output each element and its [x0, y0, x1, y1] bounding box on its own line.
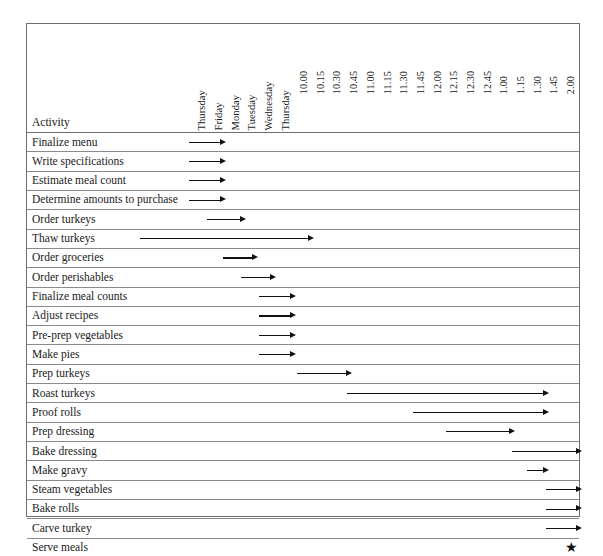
gantt-row[interactable]: Order turkeys [27, 209, 579, 228]
day-axis-label: Friday [214, 102, 225, 130]
gantt-row[interactable]: Make pies [27, 344, 579, 363]
gantt-row-label: Determine amounts to purchase [32, 193, 178, 205]
gantt-bar-arrow [446, 431, 510, 432]
gantt-row-label: Prep turkeys [32, 367, 90, 379]
gantt-row[interactable]: Steam vegetables [27, 480, 579, 499]
gantt-row-label: Roast turkeys [32, 387, 95, 399]
gantt-row-label: Adjust recipes [32, 309, 98, 321]
gantt-bar-arrow [347, 393, 544, 394]
gantt-row[interactable]: Order groceries [27, 248, 579, 267]
activity-column-header: Activity [32, 116, 70, 128]
time-axis-label: 1.45 [549, 76, 559, 94]
gantt-bar-arrow [223, 257, 253, 258]
time-axis-label: 1.00 [499, 76, 509, 94]
gantt-bar-arrow [297, 373, 347, 374]
gantt-row[interactable]: Estimate meal count [27, 171, 579, 190]
gantt-bar-arrow [189, 142, 221, 143]
time-axis-label: 10.45 [349, 71, 359, 94]
time-axis-label: 10.30 [332, 71, 342, 94]
gantt-row-label: Steam vegetables [32, 483, 112, 495]
gantt-bar-arrow [413, 412, 544, 413]
gantt-row-label: Make gravy [32, 464, 87, 476]
gantt-row[interactable]: Prep turkeys [27, 364, 579, 383]
day-axis-label: Monday [231, 94, 242, 130]
gantt-row[interactable]: Pre-prep vegetables [27, 325, 579, 344]
day-axis-label: Wednesday [264, 81, 275, 130]
gantt-bar-arrow [189, 180, 221, 181]
day-axis-label: Tuesday [247, 94, 258, 130]
time-axis-label: 12.30 [466, 71, 476, 94]
time-axis-label: 12.15 [449, 71, 459, 94]
gantt-row[interactable]: Bake dressing [27, 441, 579, 460]
gantt-bar-arrow [527, 470, 544, 471]
gantt-row[interactable]: Finalize meal counts [27, 287, 579, 306]
time-axis-label: 1.15 [516, 76, 526, 94]
gantt-row-label: Bake dressing [32, 445, 97, 457]
time-axis-label: 11.45 [416, 71, 426, 94]
gantt-row-label: Serve meals [32, 541, 88, 553]
gantt-row-label: Estimate meal count [32, 174, 126, 186]
gantt-row-label: Finalize menu [32, 136, 97, 148]
gantt-row[interactable]: Finalize menu [27, 132, 579, 151]
gantt-bar-arrow [189, 161, 221, 162]
time-axis-label: 11.00 [366, 71, 376, 94]
gantt-row-label: Order groceries [32, 251, 104, 263]
gantt-bar-arrow [189, 200, 221, 201]
gantt-row[interactable]: Proof rolls [27, 402, 579, 421]
gantt-row[interactable]: Bake rolls [27, 499, 579, 518]
gantt-row[interactable]: Determine amounts to purchase [27, 190, 579, 209]
gantt-row-label: Write specifications [32, 155, 124, 167]
time-axis-label: 11.30 [399, 71, 409, 94]
time-axis-label: 1.30 [533, 76, 543, 94]
time-axis-label: 10.00 [299, 71, 309, 94]
gantt-bar-arrow [207, 219, 241, 220]
gantt-row[interactable]: Adjust recipes [27, 306, 579, 325]
gantt-row-label: Order perishables [32, 271, 113, 283]
gantt-bar-arrow [259, 315, 291, 316]
gantt-bar-arrow [241, 277, 271, 278]
gantt-bar-arrow [546, 528, 577, 529]
gantt-row-label: Pre-prep vegetables [32, 329, 123, 341]
gantt-bar-arrow [140, 238, 309, 239]
time-axis-label: 12.45 [483, 71, 493, 94]
gantt-chart: ThursdayFridayMondayTuesdayWednesdayThur… [26, 23, 580, 517]
chart-header-band: ThursdayFridayMondayTuesdayWednesdayThur… [27, 24, 579, 132]
time-axis-label: 12.00 [433, 71, 443, 94]
gantt-row-label: Finalize meal counts [32, 290, 127, 302]
gantt-row[interactable]: Roast turkeys [27, 383, 579, 402]
gantt-row-label: Thaw turkeys [32, 232, 95, 244]
gantt-row-label: Bake rolls [32, 502, 79, 514]
gantt-row[interactable]: Order perishables [27, 267, 579, 286]
gantt-bar-arrow [546, 509, 577, 510]
gantt-bar-arrow [259, 335, 291, 336]
gantt-row-label: Make pies [32, 348, 80, 360]
gantt-row[interactable]: Write specifications [27, 151, 579, 170]
gantt-bar-arrow [512, 451, 577, 452]
time-axis-label: 10.15 [316, 71, 326, 94]
gantt-bar-arrow [546, 489, 577, 490]
time-axis-label: 11.15 [383, 71, 393, 94]
gantt-row[interactable]: Carve turkey [27, 518, 579, 537]
gantt-row[interactable]: Prep dressing [27, 422, 579, 441]
gantt-row[interactable]: Make gravy [27, 460, 579, 479]
time-axis-label: 2.00 [566, 76, 576, 94]
milestone-star-icon: ★ [565, 541, 578, 555]
gantt-row-label: Order turkeys [32, 213, 96, 225]
gantt-row-label: Prep dressing [32, 425, 94, 437]
gantt-row[interactable]: Serve meals★ [27, 538, 579, 556]
day-axis-label: Thursday [281, 90, 292, 130]
day-axis-label: Thursday [197, 90, 208, 130]
gantt-row-list: Finalize menuWrite specificationsEstimat… [27, 132, 579, 556]
gantt-row-label: Carve turkey [32, 522, 92, 534]
gantt-bar-arrow [259, 354, 291, 355]
gantt-row[interactable]: Thaw turkeys [27, 229, 579, 248]
gantt-row-label: Proof rolls [32, 406, 81, 418]
gantt-bar-arrow [259, 296, 291, 297]
